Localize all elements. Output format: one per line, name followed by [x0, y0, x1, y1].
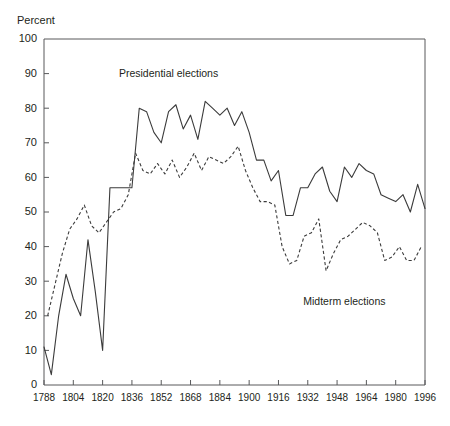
series-annotation-label: Presidential elections [119, 67, 218, 79]
y-tick-label: 50 [25, 205, 37, 217]
x-tick-label: 1820 [91, 392, 114, 403]
y-axis-title-group: Percent [17, 14, 55, 26]
x-tick-label: 1980 [385, 392, 408, 403]
y-tick-label: 80 [25, 102, 37, 114]
y-tick-label: 70 [25, 136, 37, 148]
y-tick-label: 30 [25, 275, 37, 287]
presidential-elections-line [44, 101, 425, 374]
x-tick-label: 1852 [150, 392, 173, 403]
y-tick-label: 100 [19, 32, 37, 44]
x-tick-label: 1900 [238, 392, 261, 403]
y-tick-label: 40 [25, 240, 37, 252]
y-axis-title: Percent [17, 14, 55, 26]
midterm-elections-line [48, 146, 422, 316]
x-tick-label: 1948 [326, 392, 349, 403]
x-tick-label: 1836 [121, 392, 144, 403]
chart-container: Percent 0102030405060708090100 178818041… [0, 0, 450, 426]
y-tick-label: 90 [25, 67, 37, 79]
x-tick-label: 1916 [267, 392, 290, 403]
x-tick-label: 1788 [33, 392, 56, 403]
series-annotation-label: Midterm elections [303, 295, 385, 307]
x-tick-label: 1804 [62, 392, 85, 403]
x-axis-ticks: 1788180418201836185218681884190019161932… [33, 380, 437, 403]
x-tick-label: 1868 [179, 392, 202, 403]
x-tick-label: 1964 [355, 392, 378, 403]
x-tick-label: 1996 [414, 392, 437, 403]
y-tick-label: 60 [25, 171, 37, 183]
voter-turnout-line-chart: Percent 0102030405060708090100 178818041… [0, 0, 450, 426]
y-tick-label: 20 [25, 309, 37, 321]
y-tick-label: 0 [31, 378, 37, 390]
x-tick-label: 1932 [297, 392, 320, 403]
y-tick-label: 10 [25, 344, 37, 356]
x-tick-label: 1884 [209, 392, 232, 403]
